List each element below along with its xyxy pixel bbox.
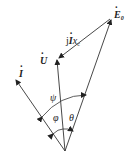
label-jixc: jIxc [66,36,80,47]
label-psi: ψ [50,93,56,103]
label-u: U [40,56,47,66]
psi-arc [42,95,86,117]
label-i: I [19,69,23,79]
phasor-diagram: E0 jIxc U I ψ φ θ [0,0,133,161]
label-e0: E0 [114,10,124,21]
phasor-u-arrow [57,60,65,151]
label-phi: φ [53,113,59,123]
phasor-lines [0,0,133,161]
label-theta: θ [69,113,74,123]
phi-arc [53,129,63,134]
theta-arc [63,129,73,131]
